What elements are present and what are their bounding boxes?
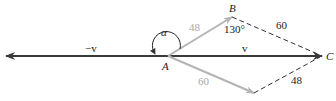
label-alpha: α xyxy=(161,26,167,38)
label-bc-length: 60 xyxy=(276,19,288,31)
label-angle-b: 130° xyxy=(224,23,245,35)
vector-ad xyxy=(168,56,254,93)
vector-diagram: α A B C −v v 130° 48 60 60 48 xyxy=(0,0,336,101)
label-neg-v: −v xyxy=(85,42,97,54)
label-dc-length: 48 xyxy=(291,74,303,86)
label-b: B xyxy=(229,2,236,14)
label-v: v xyxy=(242,42,248,54)
label-ad-length: 60 xyxy=(198,75,210,87)
label-c: C xyxy=(326,50,334,62)
dashed-dc xyxy=(254,57,320,93)
label-a: A xyxy=(161,60,169,72)
label-ab-length: 48 xyxy=(189,21,201,33)
